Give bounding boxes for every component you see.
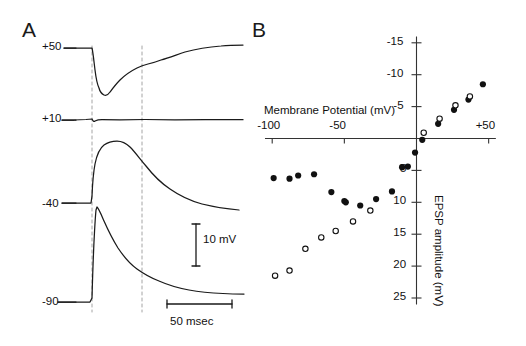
data-point-filled (271, 175, 277, 181)
data-point-open (467, 94, 472, 99)
panel-b-axes (265, 36, 496, 304)
data-point-open (437, 116, 442, 121)
data-point-open (421, 130, 426, 135)
data-point-filled (286, 176, 292, 182)
y-tick-label-5: 5 (400, 162, 406, 174)
x-tick-label--50: -50 (329, 119, 346, 131)
data-point-filled (373, 196, 379, 202)
data-point-filled (343, 199, 349, 205)
y-tick-label-25: 25 (393, 290, 406, 302)
data-point-open (368, 208, 373, 213)
data-point-filled (419, 137, 425, 143)
data-point-open (350, 219, 355, 224)
y-tick-label-15: 15 (393, 226, 406, 238)
data-point-filled (412, 149, 418, 155)
y-tick-label-10: 10 (393, 194, 406, 206)
data-point-filled (328, 189, 334, 195)
y-tick-label--5: -5 (393, 99, 403, 111)
y-tick-label-20: 20 (393, 258, 406, 270)
data-point-open (453, 103, 458, 108)
panel-b-scatter-plot (0, 0, 526, 346)
x-tick-label--100: -100 (257, 119, 280, 131)
data-point-filled (295, 172, 301, 178)
data-point-open (272, 273, 277, 278)
data-point-filled (357, 202, 363, 208)
data-point-open (287, 268, 292, 273)
panel-b-tick-marks (272, 43, 488, 298)
data-point-open (303, 246, 308, 251)
data-point-open (333, 228, 338, 233)
y-tick-label--15: -15 (387, 35, 404, 47)
data-point-filled (311, 171, 317, 177)
x-tick-label-+50: +50 (476, 119, 496, 131)
y-axis-title: EPSP amplitude (mV) (433, 195, 445, 307)
data-point-filled (480, 81, 486, 87)
x-axis-title: Membrane Potential (mV) (264, 104, 395, 116)
y-tick-label--10: -10 (387, 67, 404, 79)
figure-root: A (0, 0, 526, 346)
data-point-open (319, 235, 324, 240)
